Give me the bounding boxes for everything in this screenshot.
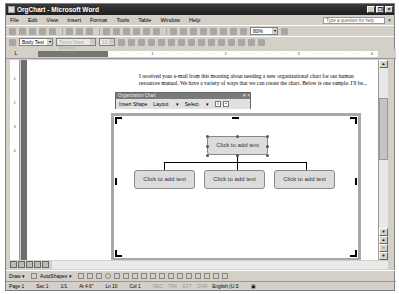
org-chart-canvas[interactable]: Click to add text Click to add text Clic… (111, 113, 361, 260)
org-toolbar-close-icon[interactable]: ▾ × (243, 93, 250, 99)
spelling-icon[interactable] (86, 28, 93, 35)
3d-style-icon[interactable] (222, 273, 228, 279)
resize-handle-top-left[interactable] (115, 117, 122, 124)
scroll-track[interactable] (52, 261, 388, 269)
resize-handle-top-right[interactable] (350, 117, 357, 124)
columns-icon[interactable] (210, 28, 217, 35)
border-icon[interactable] (238, 39, 245, 46)
bullets-icon[interactable] (208, 39, 215, 46)
styles-formatting-icon[interactable] (9, 39, 16, 46)
undo-icon[interactable] (143, 28, 150, 35)
print-preview-icon[interactable] (76, 28, 83, 35)
org-box-child-1[interactable]: Click to add text (134, 170, 195, 189)
resize-handle-bottom-left[interactable] (115, 250, 122, 257)
restore-button[interactable]: ❐ (376, 6, 384, 13)
menu-insert[interactable]: Insert (67, 17, 81, 23)
normal-view-icon[interactable] (10, 261, 17, 268)
print-icon[interactable] (66, 28, 73, 35)
vertical-scrollbar[interactable]: ▲ ▼ ▲ ○ ▼ (378, 60, 388, 260)
status-ext[interactable]: EXT (182, 284, 191, 289)
text-wrapping-icon[interactable]: ▪ (223, 101, 229, 107)
draw-menu-button[interactable]: Draw ▾ (9, 273, 25, 279)
open-icon[interactable] (19, 28, 26, 35)
org-box-child-3[interactable]: Click to add text (274, 170, 335, 189)
document-map-icon[interactable] (230, 28, 237, 35)
permission-icon[interactable] (39, 28, 46, 35)
redo-icon[interactable] (153, 28, 160, 35)
scroll-down-icon[interactable]: ▼ (379, 228, 388, 236)
underline-icon[interactable] (138, 39, 145, 46)
selection-handle[interactable] (266, 135, 269, 138)
email-icon[interactable] (49, 28, 56, 35)
font-size-select[interactable]: 10▾ (99, 38, 115, 46)
selection-handle[interactable] (206, 154, 209, 157)
autoshapes-button[interactable]: AutoShapes ▾ (40, 273, 72, 279)
autoformat-icon[interactable]: ◊ (215, 101, 221, 107)
italic-icon[interactable] (128, 39, 135, 46)
decrease-indent-icon[interactable] (218, 39, 225, 46)
spelling-status-icon[interactable]: ▣ (251, 284, 256, 289)
resize-handle-bottom-right[interactable] (350, 250, 357, 257)
arrow-style-icon[interactable] (204, 273, 210, 279)
horizontal-ruler[interactable]: L · · · 1 · · · · 2 · · · · 3 · · · · 4 … (6, 49, 396, 59)
new-icon[interactable] (9, 28, 16, 35)
show-hide-icon[interactable] (240, 28, 247, 35)
increase-indent-icon[interactable] (228, 39, 235, 46)
paste-icon[interactable] (123, 28, 130, 35)
line-spacing-icon[interactable] (188, 39, 195, 46)
diagram-icon[interactable] (132, 273, 138, 279)
status-ovr[interactable]: OVR (197, 284, 207, 289)
menu-view[interactable]: View (46, 17, 58, 23)
clip-art-icon[interactable] (141, 273, 147, 279)
selection-handle[interactable] (266, 154, 269, 157)
selection-handle[interactable] (236, 135, 239, 138)
insert-shape-button[interactable]: Insert Shape (119, 101, 147, 107)
org-toolbar-title-bar[interactable]: Organization Chart ▾ × (116, 93, 250, 99)
selection-handle[interactable] (236, 154, 239, 157)
document-page[interactable]: I received your e-mail from this morning… (27, 60, 378, 260)
align-right-icon[interactable] (168, 39, 175, 46)
justify-icon[interactable] (178, 39, 185, 46)
zoom-select[interactable]: 80%▾ (250, 27, 278, 35)
drawing-icon[interactable] (220, 28, 227, 35)
bold-icon[interactable] (118, 39, 125, 46)
body-paragraph[interactable]: I received your e-mail from this morning… (139, 73, 369, 86)
org-box-child-2[interactable]: Click to add text (204, 170, 265, 189)
previous-page-icon[interactable]: ▲ (379, 236, 388, 244)
select-browse-object-icon[interactable]: ○ (379, 244, 388, 252)
status-trk[interactable]: TRK (168, 284, 178, 289)
close-document-icon[interactable]: × (388, 17, 391, 23)
selection-handle[interactable] (206, 145, 209, 148)
picture-icon[interactable] (150, 273, 156, 279)
help-search-input[interactable]: Type a question for help (323, 17, 385, 24)
align-left-icon[interactable] (148, 39, 155, 46)
line-color-icon[interactable] (168, 273, 174, 279)
tab-selector-icon[interactable]: L (12, 50, 20, 58)
resize-handle-left[interactable] (115, 178, 117, 185)
status-rec[interactable]: REC (153, 284, 163, 289)
save-icon[interactable] (29, 28, 36, 35)
numbering-icon[interactable] (198, 39, 205, 46)
insert-table-icon[interactable] (190, 28, 197, 35)
highlight-icon[interactable] (248, 39, 255, 46)
oval-icon[interactable] (105, 273, 111, 279)
print-layout-view-icon[interactable] (26, 261, 33, 268)
resize-handle-top[interactable] (232, 117, 239, 119)
shadow-style-icon[interactable] (213, 273, 219, 279)
close-button[interactable]: × (385, 6, 393, 13)
fill-color-icon[interactable] (159, 273, 165, 279)
line-icon[interactable] (78, 273, 84, 279)
select-objects-icon[interactable] (31, 273, 37, 279)
arrow-icon[interactable] (87, 273, 93, 279)
selection-handle[interactable] (266, 145, 269, 148)
reading-layout-view-icon[interactable] (42, 261, 49, 268)
menu-table[interactable]: Table (138, 17, 151, 23)
menu-edit[interactable]: Edit (28, 17, 37, 23)
horizontal-scrollbar[interactable] (10, 260, 388, 269)
hyperlink-icon[interactable] (170, 28, 177, 35)
layout-button[interactable]: Layout ▾ (153, 101, 178, 107)
wordart-icon[interactable] (123, 273, 129, 279)
font-color-icon[interactable] (177, 273, 183, 279)
menu-window[interactable]: Window (160, 17, 180, 23)
rectangle-icon[interactable] (96, 273, 102, 279)
